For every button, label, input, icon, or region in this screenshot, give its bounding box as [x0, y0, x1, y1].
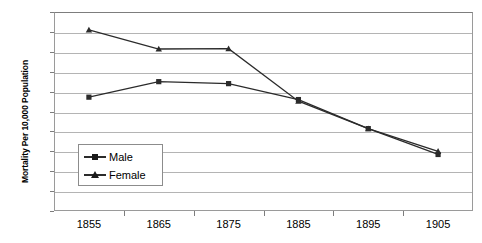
x-tick-mark [264, 211, 265, 216]
x-tick-label: 1895 [356, 218, 380, 230]
y-tick-mark [50, 52, 54, 53]
y-tick-mark [50, 171, 54, 172]
gridline [55, 73, 472, 74]
x-tick-mark [194, 211, 195, 216]
y-tick-mark [50, 151, 54, 152]
y-tick-mark [50, 112, 54, 113]
legend-label-male: Male [109, 151, 133, 163]
x-tick-label: 1865 [147, 218, 171, 230]
line-chart: Mortality Per 10,000 Population 05101520… [0, 0, 482, 243]
x-tick-label: 1875 [216, 218, 240, 230]
y-tick-mark [50, 92, 54, 93]
x-tick-mark [333, 211, 334, 216]
x-tick-label: 1905 [426, 218, 450, 230]
x-tick-mark [124, 211, 125, 216]
x-tick-mark [403, 211, 404, 216]
chart-legend: Male Female [78, 144, 163, 186]
gridline [55, 53, 472, 54]
y-tick-mark [50, 131, 54, 132]
gridline [55, 192, 472, 193]
gridline [55, 113, 472, 114]
gridline [55, 33, 472, 34]
y-tick-mark [50, 191, 54, 192]
male-marker-icon [84, 151, 106, 163]
y-tick-mark [50, 12, 54, 13]
x-tick-label: 1885 [286, 218, 310, 230]
gridline [55, 93, 472, 94]
legend-item-male: Male [84, 148, 157, 166]
y-tick-mark [50, 211, 54, 212]
legend-label-female: Female [109, 169, 146, 181]
y-tick-mark [50, 72, 54, 73]
y-tick-mark [50, 32, 54, 33]
female-marker-icon [84, 169, 106, 181]
gridline [55, 132, 472, 133]
legend-item-female: Female [84, 166, 157, 184]
x-tick-label: 1855 [77, 218, 101, 230]
y-axis-title: Mortality Per 10,000 Population [16, 0, 34, 243]
